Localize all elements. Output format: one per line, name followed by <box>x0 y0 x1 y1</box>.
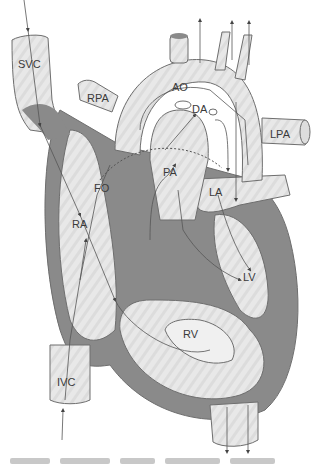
da-opening-right <box>209 109 217 115</box>
ivc-vessel <box>50 345 90 404</box>
vessel-opening <box>170 33 188 39</box>
label-fo: FO <box>94 182 110 194</box>
label-la: LA <box>209 186 223 198</box>
caption-fragment <box>10 458 50 464</box>
label-rpa: RPA <box>87 92 109 104</box>
caption-fragment <box>120 458 155 464</box>
caption-fragment <box>60 458 110 464</box>
caption-cut-off <box>10 458 310 466</box>
label-lpa: LPA <box>270 128 291 140</box>
label-ivc: IVC <box>57 376 75 388</box>
left-subclavian-artery <box>235 35 252 80</box>
brachiocephalic-artery <box>170 35 188 63</box>
caption-fragment <box>230 458 275 464</box>
lpa-opening <box>300 120 310 144</box>
label-da: DA <box>192 103 208 115</box>
caption-fragment <box>165 458 220 464</box>
label-lv: LV <box>243 271 256 283</box>
label-svc: SVC <box>18 58 41 70</box>
label-ra: RA <box>72 218 88 230</box>
label-ao: AO <box>172 81 188 93</box>
heart-diagram: SVC RPA AO DA LPA PA LA FO RA LV RV IVC <box>0 0 323 472</box>
descending-aorta-bottom <box>210 402 258 446</box>
da-opening-left <box>175 101 191 109</box>
label-rv: RV <box>183 328 199 340</box>
label-pa: PA <box>163 166 178 178</box>
left-carotid-artery <box>215 32 230 70</box>
